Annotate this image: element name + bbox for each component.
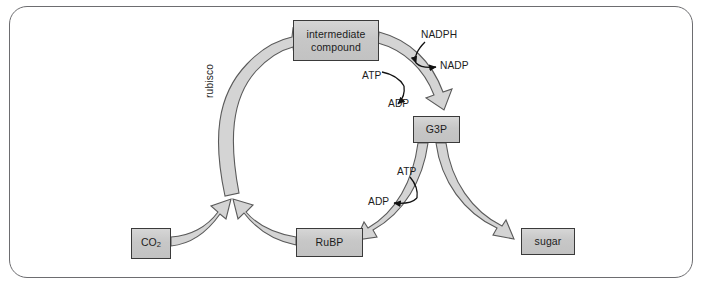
cofactor-label-atp-1: ATP xyxy=(362,70,381,81)
cofactor-label-atp-2: ATP xyxy=(397,166,416,177)
node-co2: CO2 xyxy=(131,228,171,259)
node-intermediate-compound: intermediate compound xyxy=(293,20,379,61)
node-intermediate-compound-label: intermediate compound xyxy=(307,28,366,52)
cofactor-arrow-atp-in-1 xyxy=(382,72,404,86)
node-sugar-label: sugar xyxy=(535,235,562,247)
node-co2-label: CO2 xyxy=(141,236,161,252)
node-rubp: RuBP xyxy=(296,228,363,257)
flow-arrow-rubp-to-rubisco xyxy=(233,199,296,245)
calvin-cycle-figure: intermediate compound G3P sugar RuBP CO2… xyxy=(0,0,703,286)
enzyme-label-rubisco: rubisco xyxy=(204,64,215,98)
cofactor-label-adp-1: ADP xyxy=(388,98,409,109)
node-sugar: sugar xyxy=(521,228,575,255)
cofactor-label-adp-2: ADP xyxy=(368,196,389,207)
flow-arrow-co2-to-rubisco xyxy=(171,199,231,246)
node-g3p-label: G3P xyxy=(426,123,447,135)
cofactor-label-nadp: NADP xyxy=(440,60,469,71)
node-g3p: G3P xyxy=(413,116,460,143)
flow-arrow-g3p-to-sugar xyxy=(436,143,514,239)
cofactor-label-nadph: NADPH xyxy=(421,29,457,40)
node-rubp-label: RuBP xyxy=(316,236,344,248)
